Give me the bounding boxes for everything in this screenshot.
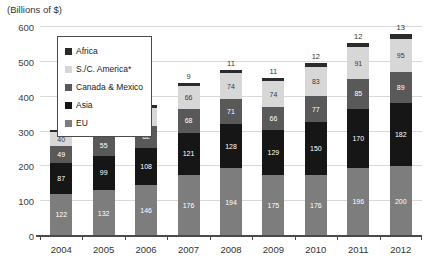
legend-swatch-icon [65, 120, 72, 127]
bar-segment-s--c--america-: 74 [220, 73, 242, 99]
bar-stack: 176150778312 [305, 63, 327, 236]
bar-segment-s--c--america-: 95 [390, 39, 412, 72]
legend-item-africa: Africa [65, 42, 143, 60]
y-tick-label: 200 [18, 161, 40, 172]
bar-segment-eu: 132 [93, 190, 115, 236]
africa-value-label: 12 [341, 32, 375, 41]
bar-segment-eu: 196 [347, 168, 369, 236]
bar-segment-canada---mexico: 55 [93, 136, 115, 155]
legend: AfricaS./C. America*Canada & MexicoAsiaE… [57, 36, 152, 137]
x-axis-line [36, 235, 422, 237]
legend-item-asia: Asia [65, 96, 143, 114]
bar-segment-asia: 99 [93, 156, 115, 190]
y-tick-label: 100 [18, 196, 40, 207]
bar-segment-canada---mexico: 68 [178, 109, 200, 133]
africa-value-label: 12 [299, 52, 333, 61]
bar-segment-eu: 194 [220, 168, 242, 236]
bar-segment-asia: 150 [305, 122, 327, 174]
legend-label: Canada & Mexico [76, 82, 143, 92]
bar-column-2009: 175129667411 [252, 27, 294, 236]
legend-swatch-icon [65, 102, 72, 109]
bar-segment-asia: 121 [178, 133, 200, 175]
bar-stack: 194128717411 [220, 70, 242, 237]
x-axis-label-2009: 2009 [252, 244, 294, 255]
x-tick-mark [167, 236, 168, 240]
bar-segment-eu: 200 [390, 166, 412, 236]
y-tick-label: 500 [18, 56, 40, 67]
legend-swatch-icon [65, 66, 72, 73]
bar-segment-canada---mexico: 85 [347, 79, 369, 109]
bar-segment-s--c--america-: 74 [262, 81, 284, 107]
bar-segment-asia: 170 [347, 109, 369, 168]
x-tick-mark [125, 236, 126, 240]
stacked-bar-chart: (Billions of $) 0100200300400500600 1228… [0, 0, 430, 264]
x-axis-label-2010: 2010 [295, 244, 337, 255]
bar-segment-asia: 182 [390, 103, 412, 166]
legend-label: Africa [76, 46, 98, 56]
bar-segment-eu: 176 [178, 175, 200, 236]
africa-value-label: 11 [214, 59, 248, 68]
bar-segment-s--c--america-: 91 [347, 47, 369, 79]
bar-stack: 196170859112 [347, 43, 369, 236]
x-axis-label-2008: 2008 [210, 244, 252, 255]
bar-column-2012: 200182899513 [380, 27, 422, 236]
y-tick-label: 400 [18, 91, 40, 102]
x-axis-label-2004: 2004 [40, 244, 82, 255]
x-axis-label-2006: 2006 [125, 244, 167, 255]
legend-swatch-icon [65, 48, 72, 55]
x-tick-mark [380, 236, 381, 240]
x-tick-mark [252, 236, 253, 240]
bar-segment-canada---mexico: 71 [220, 99, 242, 124]
bar-segment-asia: 108 [135, 148, 157, 186]
bar-segment-canada---mexico: 89 [390, 72, 412, 103]
africa-value-label: 9 [172, 72, 206, 81]
x-axis-label-2011: 2011 [337, 244, 379, 255]
legend-label: EU [76, 118, 88, 128]
africa-value-label: 13 [384, 23, 418, 32]
x-tick-mark [295, 236, 296, 240]
bar-segment-eu: 175 [262, 175, 284, 236]
x-axis-label-2012: 2012 [380, 244, 422, 255]
africa-value-label: 11 [256, 67, 290, 76]
legend-item-s--c--america-: S./C. America* [65, 60, 143, 78]
bar-column-2011: 196170859112 [337, 27, 379, 236]
bar-stack: 17612168669 [178, 83, 200, 236]
chart-title: (Billions of $) [7, 4, 62, 15]
bar-stack: 200182899513 [390, 34, 412, 236]
x-tick-mark [82, 236, 83, 240]
bar-segment-canada---mexico: 49 [50, 146, 72, 163]
x-tick-mark [40, 236, 41, 240]
x-tick-mark [210, 236, 211, 240]
bar-segment-s--c--america-: 83 [305, 67, 327, 96]
x-tick-mark [337, 236, 338, 240]
bar-segment-eu: 176 [305, 175, 327, 236]
bar-column-2008: 194128717411 [210, 27, 252, 236]
legend-item-eu: EU [65, 114, 143, 132]
bar-segment-asia: 87 [50, 163, 72, 193]
bar-segment-canada---mexico: 66 [262, 107, 284, 130]
legend-item-canada---mexico: Canada & Mexico [65, 78, 143, 96]
x-axis-label-2005: 2005 [82, 244, 124, 255]
legend-label: S./C. America* [76, 64, 131, 74]
bar-segment-s--c--america-: 66 [178, 86, 200, 109]
bar-segment-eu: 146 [135, 185, 157, 236]
bar-segment-eu: 122 [50, 194, 72, 236]
y-tick-label: 600 [18, 22, 40, 33]
bar-column-2007: 17612168669 [167, 27, 209, 236]
x-axis-labels: 200420052006200720082009201020112012 [40, 244, 422, 255]
legend-swatch-icon [65, 84, 72, 91]
legend-label: Asia [76, 100, 93, 110]
y-tick-label: 300 [18, 126, 40, 137]
bar-segment-asia: 128 [220, 124, 242, 169]
bar-column-2010: 176150778312 [295, 27, 337, 236]
bar-segment-canada---mexico: 77 [305, 96, 327, 123]
x-axis-label-2007: 2007 [167, 244, 209, 255]
bar-stack: 1228749407 [50, 130, 72, 236]
x-tick-mark [421, 236, 422, 240]
bar-segment-asia: 129 [262, 130, 284, 175]
bar-stack: 175129667411 [262, 78, 284, 236]
